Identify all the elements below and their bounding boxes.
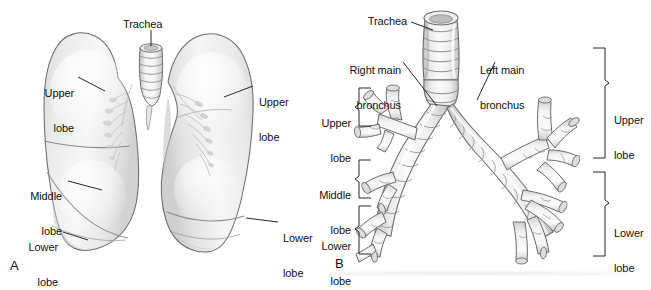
label-line-1: Upper — [291, 118, 351, 130]
label-line-1: Lower — [614, 228, 651, 240]
label-line-1: Lower — [291, 241, 351, 253]
panel-a-lungs-anterior-view: Trachea Upper lobe Middle lobe Lower lob… — [0, 0, 325, 281]
panel-letter-a: A — [10, 258, 19, 273]
bracket-right-middle-lobe — [355, 160, 371, 198]
label-line-1: Left main — [480, 65, 560, 77]
scan-artifact — [330, 272, 630, 275]
label-upper-lobe-right-anatomical: Upper lobe — [12, 65, 74, 157]
label-line-2: lobe — [12, 123, 74, 135]
label-line-2: lobe — [291, 276, 351, 288]
label-line-1: Middle — [0, 191, 62, 203]
label-left-lower-lobe-b: Lower lobe — [614, 205, 651, 290]
label-line-1: Upper — [12, 88, 74, 100]
label-line-2: bronchus — [480, 100, 560, 112]
label-line-2: lobe — [291, 153, 351, 165]
bracket-left-upper-lobe — [593, 48, 609, 158]
panel-b-tracheobronchial-tree: Trachea Right main bronchus Left main br… — [325, 0, 651, 281]
label-line-1: Upper — [614, 115, 651, 127]
label-trachea-a: Trachea — [123, 19, 162, 31]
label-lower-lobe-right-anatomical: Lower lobe — [0, 219, 58, 290]
label-line-1: Lower — [0, 242, 58, 254]
label-line-2: lobe — [0, 277, 58, 289]
panel-letter-b: B — [335, 256, 344, 271]
label-right-lower-lobe-b: Lower lobe — [291, 218, 351, 290]
bracket-right-lower-lobe — [355, 206, 371, 254]
label-trachea-b: Trachea — [345, 16, 407, 28]
bracket-left-lower-lobe — [593, 172, 609, 256]
label-line-1: Middle — [291, 190, 351, 202]
label-left-upper-lobe-b: Upper lobe — [614, 92, 651, 184]
label-line-1: Right main — [329, 65, 401, 77]
label-line-2: lobe — [614, 150, 651, 162]
label-left-main-bronchus: Left main bronchus — [480, 42, 560, 134]
